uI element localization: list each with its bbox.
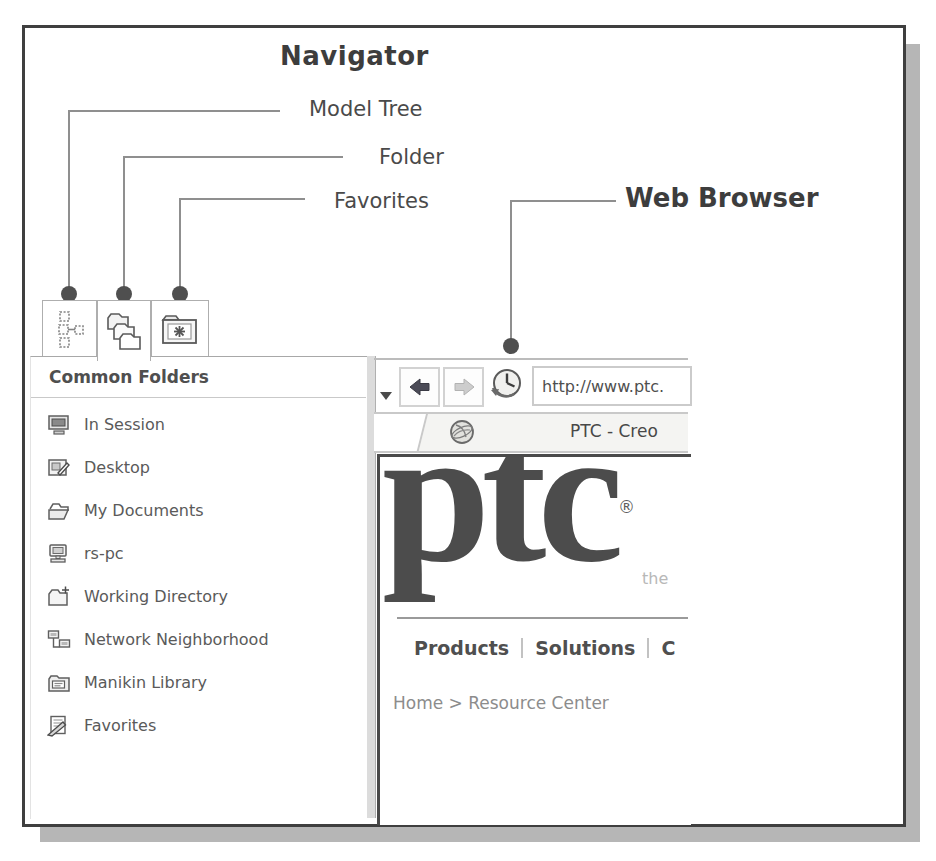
manikin-library-icon xyxy=(47,672,71,694)
figure-frame: Navigator Model Tree Folder Favorites We… xyxy=(22,25,906,827)
common-folders-list: In Session Desktop xyxy=(31,403,366,747)
address-bar-value: http://www.ptc. xyxy=(534,377,664,396)
callout-line-model-tree xyxy=(68,110,70,288)
menu-item-cropped[interactable]: C xyxy=(661,637,675,659)
navigator-panel: Common Folders In Session xyxy=(30,356,367,819)
site-menu: Products Solutions C xyxy=(414,637,675,659)
folder-item-label: Desktop xyxy=(84,458,150,477)
computer-icon xyxy=(47,543,71,565)
callout-line-web-browser xyxy=(510,200,616,202)
computer-icon-row folder-item-rs-pc[interactable]: rs-pc xyxy=(31,532,366,575)
callout-line-folder xyxy=(123,156,343,158)
forward-button[interactable] xyxy=(443,367,484,407)
folder-item-in-session[interactable]: In Session xyxy=(31,403,366,446)
figure-title: Navigator xyxy=(280,41,429,71)
callout-label-model-tree: Model Tree xyxy=(309,97,422,121)
folder-item-label: My Documents xyxy=(84,501,204,520)
menu-item-solutions[interactable]: Solutions xyxy=(535,637,635,659)
favorites-item-icon xyxy=(47,715,71,737)
menu-separator xyxy=(521,638,523,658)
folder-item-label: In Session xyxy=(84,415,165,434)
folder-item-label: rs-pc xyxy=(84,544,124,563)
back-button[interactable] xyxy=(399,367,440,407)
callout-line-favorites xyxy=(179,198,181,288)
network-neighborhood-icon xyxy=(47,629,71,651)
tab-favorites[interactable] xyxy=(151,300,209,357)
browser-tab-title[interactable]: PTC - Creo xyxy=(570,421,658,441)
registered-trademark: ® xyxy=(618,497,635,517)
folder-item-label: Network Neighborhood xyxy=(84,630,269,649)
browser-top-border xyxy=(374,358,688,360)
ptc-logo: PTC xyxy=(382,454,615,592)
web-page-globe-icon xyxy=(446,416,478,448)
back-arrow-icon xyxy=(407,375,433,399)
callout-dot-web-browser xyxy=(503,338,519,354)
tab-folder[interactable] xyxy=(97,300,151,361)
folder-item-my-documents[interactable]: My Documents xyxy=(31,489,366,532)
browser-tab-strip: PTC - Creo xyxy=(374,412,688,453)
in-session-icon xyxy=(47,414,71,436)
browser-tab-notch xyxy=(374,414,428,451)
folder-item-label: Favorites xyxy=(84,716,156,735)
folder-stack-icon xyxy=(104,310,144,352)
menu-item-products[interactable]: Products xyxy=(414,637,509,659)
address-bar[interactable]: http://www.ptc. xyxy=(532,366,692,406)
folder-item-network-neighborhood[interactable]: Network Neighborhood xyxy=(31,618,366,661)
menu-separator xyxy=(647,638,649,658)
callout-label-web-browser: Web Browser xyxy=(625,183,819,213)
folder-item-manikin-library[interactable]: Manikin Library xyxy=(31,661,366,704)
my-documents-icon xyxy=(47,500,71,522)
model-tree-icon xyxy=(53,309,87,349)
callout-line-folder xyxy=(123,156,125,288)
callout-line-model-tree xyxy=(68,110,280,112)
folder-item-label: Manikin Library xyxy=(84,673,207,692)
favorites-folder-icon xyxy=(160,311,200,347)
figure-canvas: Navigator Model Tree Folder Favorites We… xyxy=(0,0,936,861)
navigator-collapse-arrow-icon[interactable] xyxy=(380,392,392,400)
working-directory-icon xyxy=(47,586,71,608)
tab-model-tree[interactable] xyxy=(42,300,97,357)
breadcrumb[interactable]: Home > Resource Center xyxy=(393,693,609,713)
callout-label-folder: Folder xyxy=(379,145,444,169)
callout-line-web-browser xyxy=(510,200,512,346)
globe-clock-icon xyxy=(484,363,526,405)
forward-arrow-icon xyxy=(451,375,477,399)
page-divider-rule xyxy=(397,617,688,619)
panel-separator xyxy=(31,397,366,398)
desktop-icon xyxy=(47,457,71,479)
folder-item-working-directory[interactable]: Working Directory xyxy=(31,575,366,618)
web-page-content: PTC ® the Products Solutions C Home > Re… xyxy=(377,454,691,825)
panel-title: Common Folders xyxy=(49,367,209,387)
callout-line-favorites xyxy=(179,198,305,200)
callout-label-favorites: Favorites xyxy=(334,189,429,213)
folder-item-desktop[interactable]: Desktop xyxy=(31,446,366,489)
folder-item-favorites[interactable]: Favorites xyxy=(31,704,366,747)
stop-reload-button[interactable] xyxy=(484,363,526,405)
folder-item-label: Working Directory xyxy=(84,587,228,606)
logo-tagline-fragment: the xyxy=(642,569,668,588)
